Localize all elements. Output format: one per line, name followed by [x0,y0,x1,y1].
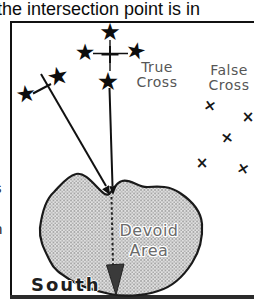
false-cross-star-x-icon: × [196,156,209,171]
pointer-star-upper-icon: ★ [44,61,71,90]
devoid-area-label: Devoid Area [110,221,188,261]
south-label: South [31,274,101,295]
cross-extension-arrow-line [110,88,113,186]
true-cross-label-line2: Cross [132,75,182,90]
figure-canvas: the intersection point is in s n [0,0,254,299]
true-cross-label: True Cross [132,60,182,90]
false-cross-star-x-icon: × [220,130,235,147]
true-cross-label-line1: True [132,60,182,75]
true-cross-left-star-icon: ★ [75,41,96,64]
false-cross-label-line1: False [204,63,254,78]
true-cross-top-star-icon: ★ [99,20,121,44]
devoid-area-label-line2: Area [110,241,188,261]
false-cross-label-line2: Cross [204,78,254,93]
false-cross-label: False Cross [204,63,254,93]
pointer-star-lower-icon: ★ [14,81,38,107]
true-cross-bottom-star-icon: ★ [97,69,119,94]
false-cross-star-x-icon: × [203,98,218,115]
devoid-area-label-line1: Devoid [110,221,188,241]
false-cross-star-x-icon: × [242,110,254,125]
